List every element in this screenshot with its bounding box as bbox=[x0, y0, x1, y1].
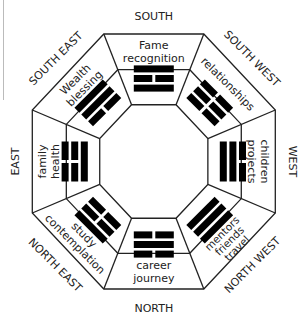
trigram-west-dui-icon bbox=[220, 142, 246, 182]
area-label-line: projects bbox=[245, 140, 258, 184]
trigram-line-broken-right bbox=[71, 142, 78, 161]
area-label-line: Fame bbox=[139, 39, 169, 52]
trigram-line-broken-left bbox=[71, 163, 78, 182]
area-label-east: familyhealth bbox=[36, 144, 62, 179]
bagua-octagon: Famerecognitionrelationshipschildrenproj… bbox=[0, 0, 306, 320]
trigram-line-broken-right bbox=[155, 75, 174, 82]
trigram-line-broken-left bbox=[239, 142, 246, 161]
area-label-line: family bbox=[36, 144, 49, 178]
area-label-west: childrenprojects bbox=[245, 139, 271, 183]
area-label-line: children bbox=[258, 139, 271, 183]
area-label-north: careerjourney bbox=[132, 259, 175, 285]
direction-text: NORTH bbox=[134, 302, 173, 315]
direction-text: EAST bbox=[9, 147, 22, 175]
direction-label-east: EAST bbox=[9, 147, 22, 175]
trigram-line-broken-right bbox=[239, 163, 246, 182]
trigram-south-li-icon bbox=[134, 65, 174, 91]
direction-text: SOUTH bbox=[134, 10, 173, 23]
trigram-line-solid bbox=[81, 142, 88, 182]
trigram-line-solid bbox=[220, 142, 227, 182]
trigram-line-broken-left bbox=[62, 163, 69, 182]
area-label-line: recognition bbox=[123, 52, 185, 65]
trigram-east-zhen-icon bbox=[62, 142, 88, 182]
trigram-line-solid bbox=[134, 65, 174, 72]
direction-label-south: SOUTH bbox=[134, 10, 173, 23]
inner-octagon bbox=[100, 105, 208, 218]
trigram-line-solid bbox=[134, 85, 174, 92]
trigram-line-broken-left bbox=[155, 251, 174, 258]
trigram-line-broken-left bbox=[155, 231, 174, 238]
area-label-south: Famerecognition bbox=[123, 39, 185, 65]
trigram-line-broken-right bbox=[134, 231, 153, 238]
trigram-line-broken-left bbox=[134, 75, 153, 82]
direction-label-west: WEST bbox=[286, 146, 299, 178]
trigram-line-solid bbox=[134, 241, 174, 248]
direction-text: WEST bbox=[286, 146, 299, 178]
area-label-line: journey bbox=[132, 272, 175, 285]
area-label-line: health bbox=[49, 144, 62, 179]
trigram-line-broken-right bbox=[62, 142, 69, 161]
trigram-line-solid bbox=[229, 142, 236, 182]
bagua-diagram: Famerecognitionrelationshipschildrenproj… bbox=[0, 0, 306, 320]
trigram-line-broken-right bbox=[134, 251, 153, 258]
direction-label-north: NORTH bbox=[134, 302, 173, 315]
area-label-line: career bbox=[136, 259, 172, 272]
left-border-rule bbox=[3, 0, 4, 100]
